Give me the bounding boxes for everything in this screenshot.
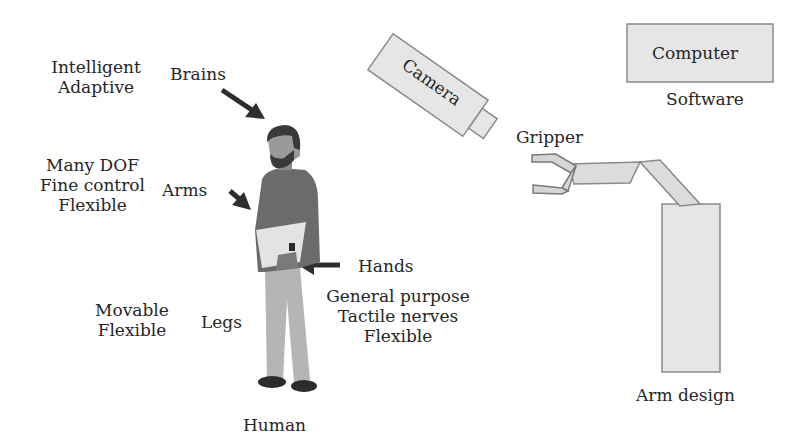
computer-label: Computer — [652, 43, 738, 63]
legs-traits: Movable Flexible — [92, 300, 172, 340]
robot-arm-icon — [532, 154, 720, 372]
arms-label: Arms — [162, 180, 207, 200]
hands-label: Hands — [358, 256, 414, 276]
trait-general-purpose: General purpose — [323, 286, 473, 306]
brains-traits: Intelligent Adaptive — [36, 57, 156, 97]
legs-label: Legs — [201, 312, 242, 332]
brains-arrow-icon — [222, 90, 265, 119]
human-figure-icon — [255, 125, 320, 392]
human-caption: Human — [243, 415, 306, 435]
software-label: Software — [666, 89, 744, 109]
trait-intelligent: Intelligent — [36, 57, 156, 77]
trait-flexible: Flexible — [323, 326, 473, 346]
trait-adaptive: Adaptive — [36, 77, 156, 97]
trait-tactile-nerves: Tactile nerves — [323, 306, 473, 326]
arms-traits: Many DOF Fine control Flexible — [35, 155, 150, 215]
trait-fine-control: Fine control — [35, 175, 150, 195]
brains-label: Brains — [170, 64, 226, 84]
trait-flexible: Flexible — [35, 195, 150, 215]
arm-design-caption: Arm design — [636, 385, 735, 405]
hands-traits: General purpose Tactile nerves Flexible — [323, 286, 473, 346]
gripper-label: Gripper — [516, 127, 583, 147]
arms-arrow-icon — [230, 191, 251, 210]
trait-movable: Movable — [92, 300, 172, 320]
trait-many-dof: Many DOF — [35, 155, 150, 175]
trait-flexible: Flexible — [92, 320, 172, 340]
